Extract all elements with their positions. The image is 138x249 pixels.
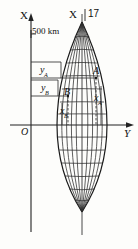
point-a-label: A [93,66,99,76]
axis-label-x: X [20,10,28,21]
axes-group [10,17,130,232]
ordinate-a-subscript: A [44,71,48,78]
origin-label: O [21,127,28,137]
axis-label-y: Y [124,128,130,139]
ordinate-b-label: yB [41,83,49,95]
abscissa-b-label: xB [60,106,68,118]
central-meridian-label: X [69,9,77,20]
abscissa-a-subscript: A [98,99,102,106]
figure-container: X X 17 500 km yA yB A B xA xB O Y [0,0,138,249]
point-a-marker [95,77,97,79]
axis-vertical-arrowhead [28,13,33,21]
abscissa-b-subscript: B [64,112,68,119]
gore-outline-right [82,22,107,212]
point-b-label: B [64,87,70,97]
scale-bar-label: 500 km [32,27,59,36]
ordinate-a-label: yA [40,65,48,77]
ordinate-b-subscript: B [45,89,49,96]
abscissa-a-label: xA [94,93,102,105]
figure-number: 17 [88,9,99,19]
gore-projection-drawing [0,0,138,249]
